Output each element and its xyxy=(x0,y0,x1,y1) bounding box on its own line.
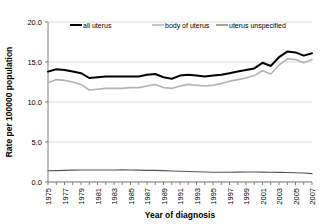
legend-label-body-of-uterus: body of uterus xyxy=(165,22,210,30)
line-chart: 0.05.010.015.020.01975197719791981198319… xyxy=(0,0,322,224)
x-tick-label: 1995 xyxy=(209,188,218,205)
x-tick-label: 1993 xyxy=(193,188,202,205)
x-tick-label: 1991 xyxy=(176,188,185,205)
x-tick-label: 2001 xyxy=(259,188,268,205)
y-tick-label: 15.0 xyxy=(27,58,42,67)
chart-container: 0.05.010.015.020.01975197719791981198319… xyxy=(0,0,322,224)
x-tick-label: 2007 xyxy=(308,188,317,205)
x-tick-label: 1997 xyxy=(226,188,235,205)
y-tick-label: 0.0 xyxy=(32,178,42,187)
y-tick-label: 5.0 xyxy=(32,138,42,147)
x-tick-label: 1989 xyxy=(160,188,169,205)
x-tick-label: 1987 xyxy=(143,188,152,205)
y-axis-title: Rate per 100000 population xyxy=(4,47,14,158)
x-tick-label: 1999 xyxy=(242,188,251,205)
x-axis-title: Year of diagnosis xyxy=(145,210,216,220)
x-tick-label: 1981 xyxy=(94,188,103,205)
x-tick-label: 2005 xyxy=(292,188,301,205)
x-tick-label: 1979 xyxy=(77,188,86,205)
y-tick-label: 10.0 xyxy=(27,98,42,107)
x-tick-label: 1983 xyxy=(110,188,119,205)
x-tick-label: 1977 xyxy=(61,188,70,205)
y-tick-label: 20.0 xyxy=(27,18,42,27)
legend-label-uterus-unspecified: uterus unspecified xyxy=(229,22,286,30)
x-tick-label: 1985 xyxy=(127,188,136,205)
legend-label-all-uterus: all uterus xyxy=(83,22,112,29)
x-tick-label: 2003 xyxy=(275,188,284,205)
x-tick-label: 1975 xyxy=(44,188,53,205)
